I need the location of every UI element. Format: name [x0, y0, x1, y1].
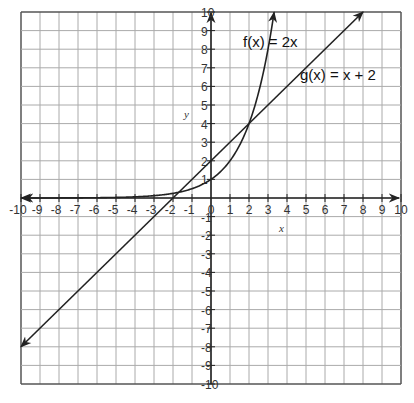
chart: -10-9-8-7-6-5-4-3-2-1012345678910 -10-9-…	[0, 0, 414, 403]
x-tick-label: -7	[70, 203, 81, 217]
y-tick-label: 6	[201, 80, 208, 94]
x-tick-label: -1	[184, 203, 195, 217]
y-tick-label: 7	[201, 62, 208, 76]
x-tick-label: 3	[265, 203, 272, 217]
x-tick-label: -10	[9, 203, 27, 217]
y-tick-label: -8	[201, 341, 212, 355]
x-tick-label: 1	[227, 203, 234, 217]
x-tick-label: 7	[341, 203, 348, 217]
x-tick-label: 5	[303, 203, 310, 217]
y-tick-label: -6	[201, 304, 212, 318]
y-tick-label: 9	[201, 25, 208, 39]
x-tick-label: -5	[108, 203, 119, 217]
x-tick-label: 4	[284, 203, 291, 217]
x-tick-label: 6	[322, 203, 329, 217]
y-tick-label: -2	[201, 229, 212, 243]
y-tick-label: -10	[201, 378, 219, 392]
y-tick-label: -9	[201, 359, 212, 373]
x-tick-label: -4	[127, 203, 138, 217]
y-tick-label: 5	[201, 99, 208, 113]
x-tick-label: -6	[89, 203, 100, 217]
y-tick-label: 8	[201, 43, 208, 57]
x-tick-label: 2	[246, 203, 253, 217]
y-tick-label: -7	[201, 322, 212, 336]
x-tick-label: 8	[360, 203, 367, 217]
x-axis-label: x	[278, 222, 284, 234]
x-tick-label: 9	[379, 203, 386, 217]
x-tick-label: -8	[51, 203, 62, 217]
y-tick-label: -1	[201, 211, 212, 225]
x-tick-label: -9	[32, 203, 43, 217]
y-axis-label: y	[183, 108, 189, 120]
y-tick-label: -5	[201, 285, 212, 299]
y-tick-label: 3	[201, 136, 208, 150]
y-tick-label: 4	[201, 118, 208, 132]
y-tick-label: 10	[201, 6, 215, 20]
x-tick-label: 10	[394, 203, 408, 217]
series-label-f: f(x) = 2x	[243, 33, 298, 50]
series-label-g: g(x) = x + 2	[300, 66, 376, 83]
y-tick-labels: -10-9-8-7-6-5-4-3-2-112345678910	[201, 6, 219, 392]
y-tick-label: -3	[201, 248, 212, 262]
y-tick-label: -4	[201, 266, 212, 280]
